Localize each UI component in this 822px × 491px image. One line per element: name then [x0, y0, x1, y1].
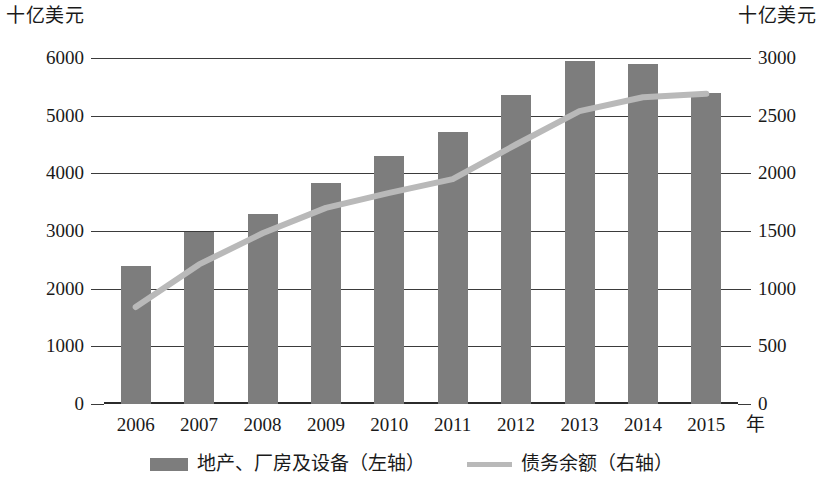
x-axis-labels: 2006200720082009201020112012201320142015	[104, 412, 738, 440]
x-axis-tick-label-2011: 2011	[421, 412, 484, 438]
left-axis-tick-mark	[91, 346, 104, 347]
left-axis-tick-label: 3000	[46, 221, 84, 240]
right-axis-tick-mark	[738, 404, 751, 405]
x-axis-tick-label-2012: 2012	[484, 412, 547, 438]
left-axis-tick-mark	[91, 231, 104, 232]
x-axis-tick-label-2013: 2013	[548, 412, 611, 438]
right-axis-tick-mark	[738, 231, 751, 232]
right-axis-tick-mark	[738, 289, 751, 290]
right-axis-tick-mark	[738, 58, 751, 59]
right-axis-tick-mark	[738, 346, 751, 347]
right-axis-tick-label: 2000	[758, 163, 796, 182]
right-axis-tick-mark	[738, 116, 751, 117]
left-axis-unit-label: 十亿美元	[6, 4, 84, 28]
x-axis-tick-label-2015: 2015	[675, 412, 738, 438]
legend-entry-2: 债务余额（右轴）	[467, 452, 673, 476]
left-axis-tick-mark	[91, 116, 104, 117]
legend-bar-swatch-icon	[150, 458, 188, 471]
right-axis-tick-label: 3000	[758, 48, 796, 67]
legend-line-swatch-icon	[467, 462, 512, 467]
left-axis-tick-mark	[91, 58, 104, 59]
x-axis-tick-label-2007: 2007	[167, 412, 230, 438]
plot-area: 0010005002000100030001500400020005000250…	[104, 58, 738, 404]
legend-label: 地产、厂房及设备（左轴）	[197, 452, 425, 476]
left-axis-tick-label: 0	[75, 394, 85, 413]
left-axis-tick-mark	[91, 404, 104, 405]
left-axis-tick-label: 2000	[46, 279, 84, 298]
left-axis-tick-label: 4000	[46, 163, 84, 182]
right-axis-unit-label: 十亿美元	[738, 4, 816, 28]
debt-balance-line	[136, 94, 707, 307]
right-axis-tick-mark	[738, 173, 751, 174]
left-axis-tick-label: 6000	[46, 48, 84, 67]
right-axis-tick-label: 1500	[758, 221, 796, 240]
left-axis-tick-label: 1000	[46, 336, 84, 355]
right-axis-tick-label: 2500	[758, 106, 796, 125]
x-axis-tick-label-2008: 2008	[231, 412, 294, 438]
chart-legend: 地产、厂房及设备（左轴）债务余额（右轴）	[0, 452, 822, 476]
x-axis-tick-label-2006: 2006	[104, 412, 167, 438]
left-axis-tick-label: 5000	[46, 106, 84, 125]
legend-label: 债务余额（右轴）	[521, 452, 673, 476]
chart-figure: 十亿美元 十亿美元 001000500200010003000150040002…	[0, 0, 822, 491]
x-axis-tick-label-2010: 2010	[358, 412, 421, 438]
right-axis-tick-label: 0	[758, 394, 768, 413]
line-series-layer	[104, 58, 738, 404]
x-axis-tick-label-2014: 2014	[611, 412, 674, 438]
left-axis-tick-mark	[91, 173, 104, 174]
right-axis-tick-label: 1000	[758, 279, 796, 298]
right-axis-tick-label: 500	[758, 336, 787, 355]
legend-entry-1: 地产、厂房及设备（左轴）	[150, 452, 425, 476]
x-axis-tick-label-2009: 2009	[294, 412, 357, 438]
left-axis-tick-mark	[91, 289, 104, 290]
x-axis-unit-label: 年	[746, 412, 765, 438]
